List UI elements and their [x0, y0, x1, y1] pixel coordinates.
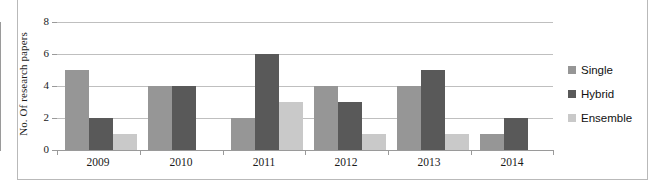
- bar-2009-hybrid[interactable]: [89, 118, 113, 150]
- bar-2012-hybrid[interactable]: [338, 102, 362, 150]
- y-tick-label-8: 8: [5, 16, 49, 27]
- gridline-2: [57, 118, 553, 119]
- y-tick-label-4: 4: [5, 80, 49, 91]
- x-category-label-2010: 2010: [141, 156, 221, 170]
- bar-2013-single[interactable]: [397, 86, 421, 150]
- chart-legend: Single Hybrid Ensemble: [568, 58, 648, 130]
- bar-2011-hybrid[interactable]: [255, 54, 279, 150]
- x-category-label-2011: 2011: [224, 156, 304, 170]
- gridline-4: [57, 86, 553, 87]
- legend-item-single[interactable]: Single: [568, 58, 648, 82]
- bar-2013-hybrid[interactable]: [421, 70, 445, 150]
- legend-swatch-single-icon: [568, 66, 576, 74]
- legend-label-single: Single: [581, 64, 613, 76]
- bar-2013-ensemble[interactable]: [445, 134, 469, 150]
- legend-item-hybrid[interactable]: Hybrid: [568, 82, 648, 106]
- y-tick-label-2: 2: [5, 112, 49, 123]
- bar-2014-single[interactable]: [480, 134, 504, 150]
- bar-chart-figure: No. Of research papers 8 6 4 2 0: [0, 0, 654, 187]
- x-tick-mark-4: [388, 150, 389, 155]
- y-tick-label-6: 6: [5, 48, 49, 59]
- x-tick-mark-1: [140, 150, 141, 155]
- bar-2010-single[interactable]: [148, 86, 172, 150]
- bar-2009-single[interactable]: [65, 70, 89, 150]
- legend-label-ensemble: Ensemble: [581, 112, 632, 124]
- y-tick-label-0: 0: [5, 144, 49, 155]
- plot-area: [57, 22, 553, 150]
- x-tick-mark-start: [57, 150, 58, 155]
- legend-label-hybrid: Hybrid: [581, 88, 614, 100]
- x-tick-mark-3: [305, 150, 306, 155]
- x-tick-mark-5: [471, 150, 472, 155]
- x-category-label-2014: 2014: [472, 156, 552, 170]
- bar-2011-single[interactable]: [231, 118, 255, 150]
- bar-2011-ensemble[interactable]: [279, 102, 303, 150]
- y-axis-line: [0, 22, 1, 151]
- legend-swatch-hybrid-icon: [568, 90, 576, 98]
- gridline-6: [57, 54, 553, 55]
- bar-2014-hybrid[interactable]: [504, 118, 528, 150]
- x-category-label-2009: 2009: [58, 156, 138, 170]
- x-tick-mark-end: [553, 150, 554, 155]
- bar-2012-ensemble[interactable]: [362, 134, 386, 150]
- y-axis-tick-labels: 8 6 4 2 0: [0, 0, 49, 187]
- x-tick-mark-2: [223, 150, 224, 155]
- legend-item-ensemble[interactable]: Ensemble: [568, 106, 648, 130]
- bar-2009-ensemble[interactable]: [113, 134, 137, 150]
- gridline-8: [57, 22, 553, 23]
- legend-swatch-ensemble-icon: [568, 114, 576, 122]
- x-category-label-2012: 2012: [306, 156, 386, 170]
- x-category-label-2013: 2013: [389, 156, 469, 170]
- bar-2012-single[interactable]: [314, 86, 338, 150]
- bar-2010-hybrid[interactable]: [172, 86, 196, 150]
